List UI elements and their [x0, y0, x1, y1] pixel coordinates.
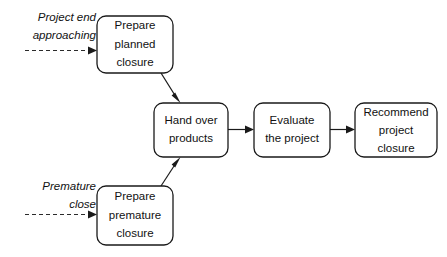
flowchart-canvas: Prepare planned closure Prepare prematur… — [0, 0, 447, 257]
label-project-end-approaching: Project end approaching — [33, 11, 97, 41]
node-evaluate-the-project-line-1: Evaluate — [270, 114, 315, 126]
edge-evaluate-to-recommend — [330, 126, 355, 134]
node-evaluate-the-project-line-2: the project — [265, 132, 320, 144]
edge-planned-closure-to-hand-over — [161, 73, 181, 103]
edge-trigger-to-premature-closure — [25, 211, 97, 219]
label-premature-close-line-1: Premature — [42, 180, 96, 192]
node-hand-over-products-line-1: Hand over — [164, 114, 217, 126]
flowchart-svg: Prepare planned closure Prepare prematur… — [0, 0, 447, 257]
label-premature-close-line-2: close — [69, 198, 96, 210]
node-hand-over-products-shape[interactable] — [154, 103, 228, 157]
edge-trigger-to-planned-closure — [25, 47, 97, 55]
label-premature-close: Premature close — [42, 180, 96, 210]
node-prepare-planned-closure-line-3: closure — [116, 56, 153, 68]
node-hand-over-products[interactable]: Hand over products — [154, 103, 228, 157]
node-evaluate-the-project-shape[interactable] — [254, 103, 330, 157]
edge-premature-closure-to-hand-over — [161, 157, 181, 186]
node-evaluate-the-project[interactable]: Evaluate the project — [254, 103, 330, 157]
node-recommend-project-closure-line-1: Recommend — [363, 106, 428, 118]
label-project-end-approaching-line-2: approaching — [33, 29, 97, 41]
node-prepare-premature-closure-line-3: closure — [116, 227, 153, 239]
node-prepare-planned-closure-line-2: planned — [115, 38, 156, 50]
edge-hand-over-to-evaluate — [228, 126, 254, 134]
node-prepare-planned-closure-line-1: Prepare — [115, 19, 156, 31]
node-hand-over-products-line-2: products — [169, 132, 213, 144]
node-recommend-project-closure-line-2: project — [379, 124, 414, 136]
node-prepare-planned-closure[interactable]: Prepare planned closure — [97, 16, 173, 73]
node-prepare-premature-closure-line-1: Prepare — [115, 190, 156, 202]
node-prepare-premature-closure-line-2: premature — [109, 209, 161, 221]
node-recommend-project-closure-line-3: closure — [377, 142, 414, 154]
label-project-end-approaching-line-1: Project end — [38, 11, 97, 23]
node-prepare-premature-closure[interactable]: Prepare premature closure — [97, 186, 173, 245]
node-recommend-project-closure[interactable]: Recommend project closure — [355, 103, 437, 157]
